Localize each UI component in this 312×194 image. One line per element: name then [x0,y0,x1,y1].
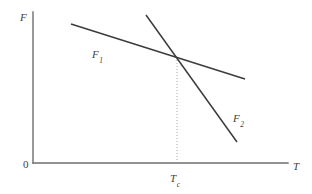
curve-f2-label: F2 [233,113,244,124]
curve-f1-label-subscript: 1 [99,56,103,65]
origin-label: 0 [23,159,29,170]
curve-f2-label-subscript: 2 [240,120,244,129]
x-axis-label: T [293,161,299,172]
free-energy-plot-canvas [0,0,312,194]
figure-root: F F1 F2 T 0 Tc [0,0,312,194]
y-axis-label-text: F [20,11,27,23]
critical-temperature-label-subscript: c [177,180,181,189]
critical-temperature-label-base: T [170,172,176,184]
x-axis-label-text: T [293,160,299,172]
critical-temperature-label: Tc [170,173,180,184]
curve-f2-line [146,15,237,142]
curve-f1-label: F1 [92,49,103,60]
y-axis-label: F [20,12,27,23]
origin-label-text: 0 [23,158,29,170]
curve-f2-label-base: F [233,112,240,124]
curve-f1-label-base: F [92,48,99,60]
